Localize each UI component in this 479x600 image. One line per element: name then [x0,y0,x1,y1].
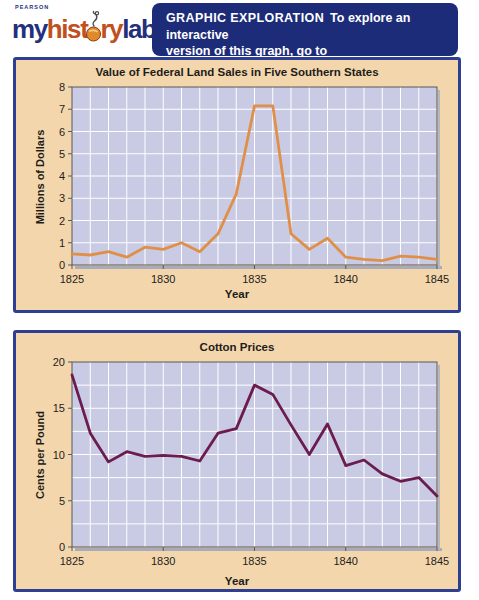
y-tick-label: 2 [59,215,65,227]
y-tick-label: 0 [59,259,65,271]
logo-ry: ry [100,14,122,44]
logo-hist: hist [47,14,88,44]
y-tick-label: 20 [53,356,65,368]
y-tick-label: 1 [59,237,65,249]
banner-heading: GRAPHIC EXPLORATION [166,11,324,25]
x-tick-label: 1835 [242,555,266,567]
x-tick-label: 1845 [425,555,449,567]
x-tick-label: 1830 [151,555,175,567]
logo-my: my [12,14,47,44]
y-tick-label: 4 [59,170,65,182]
y-tick-label: 3 [59,192,65,204]
myhistorylab-logo: PEARSON myhist rylab [12,4,152,54]
y-tick-label: 10 [53,449,65,461]
x-tick-label: 1825 [60,273,84,285]
x-tick-label: 1835 [242,273,266,285]
y-tick-label: 0 [59,541,65,553]
cotton-prices-x-axis-label: Year [16,575,458,587]
y-tick-label: 5 [59,148,65,160]
plot-shadow [75,266,442,269]
y-tick-label: 15 [53,402,65,414]
x-tick-label: 1825 [60,555,84,567]
banner-text-line2: version of this graph, go to [166,44,327,58]
plot-shadow-right [438,365,440,550]
y-tick-label: 6 [59,126,65,138]
y-tick-label: 5 [59,495,65,507]
chart-svg: 0510152018251830183518401845 [27,356,451,577]
x-tick-label: 1830 [151,273,175,285]
land-sales-x-axis-label: Year [16,288,458,300]
x-tick-label: 1840 [334,555,358,567]
land-sales-chart-title: Value of Federal Land Sales in Five Sout… [16,66,458,78]
plot-shadow [75,548,442,551]
cotton-prices-chart-title: Cotton Prices [16,341,458,353]
y-tick-label: 8 [59,81,65,93]
chart-svg: 01234567818251830183518401845 [27,81,451,295]
page-header: PEARSON myhist rylab GRAPHIC EXPLORATION… [0,0,479,57]
logo-wordmark: myhist rylab [12,10,152,42]
logo-lab: lab [122,14,155,44]
land-sales-panel: Value of Federal Land Sales in Five Sout… [13,57,461,313]
land-sales-chart: 01234567818251830183518401845 [27,81,451,299]
x-tick-label: 1845 [425,273,449,285]
x-tick-label: 1840 [334,273,358,285]
cotton-prices-chart: 0510152018251830183518401845 [27,356,451,581]
plot-shadow-right [438,90,440,268]
graphic-exploration-banner: GRAPHIC EXPLORATIONTo explore an interac… [152,3,458,56]
cotton-prices-panel: Cotton Prices Cents per Pound 0510152018… [13,330,461,592]
y-tick-label: 7 [59,103,65,115]
